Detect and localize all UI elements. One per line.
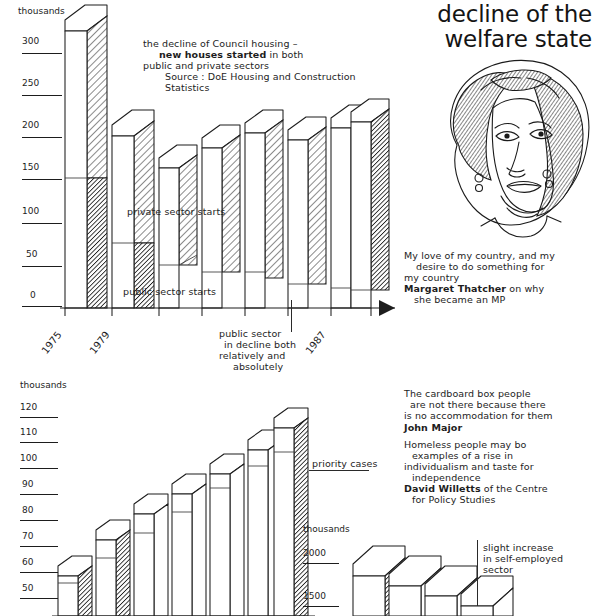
chart1-annotation-line2: in decline both <box>219 339 339 350</box>
chart3-annotation-line2: in self-employed <box>483 553 595 564</box>
thatcher-quote-attrib: Margaret Thatcher on why <box>404 283 600 294</box>
quote-david-willetts: Homeless people may bo examples of a ris… <box>404 439 602 505</box>
chart1-caption-line4: Source : DoE Housing and Construction St… <box>143 71 393 93</box>
chart3-annotation: slight increase in self-employed sector <box>483 542 595 575</box>
chart1-annotation: public sector in decline both relatively… <box>219 328 339 372</box>
chart2-bars <box>0 376 340 616</box>
quote-john-major: The cardboard box people are not there b… <box>404 388 602 433</box>
thatcher-quote-attrib-rest: on why <box>506 283 544 294</box>
chart1-annotation-line4: absolutely <box>219 361 339 372</box>
quote-david-willetts-attrib-line2: for Policy Studies <box>404 494 602 505</box>
chart3-annotation-line3: sector <box>483 564 595 575</box>
thatcher-quote-attrib-line2: she became an MP <box>404 294 600 305</box>
thatcher-quote-line1: My love of my country, and my <box>404 250 600 261</box>
chart1-xlabel-1975: 1975 <box>39 329 63 356</box>
quote-david-willetts-line1: Homeless people may bo <box>404 439 602 450</box>
chart1-xlabel-1979: 1979 <box>87 329 111 356</box>
chart1-caption: the decline of Council housing – new hou… <box>143 38 393 93</box>
chart1-annotation-line3: relatively and <box>219 350 339 361</box>
chart3-tickline-1500 <box>303 606 339 607</box>
thatcher-quote: My love of my country, and my desire to … <box>404 250 600 305</box>
quote-john-major-attrib-name: John Major <box>404 422 462 433</box>
quote-david-willetts-attrib: David Willetts of the Centre <box>404 483 602 494</box>
poster-canvas: decline of the welfare state thousands 3… <box>0 0 604 616</box>
margaret-thatcher-caricature <box>395 50 604 250</box>
quote-john-major-line3: is no accommodation for them <box>404 410 602 421</box>
chart3-annotation-line1: slight increase <box>483 542 595 553</box>
quote-david-willetts-line2: examples of a rise in <box>404 450 602 461</box>
chart2-label-leader <box>309 470 369 471</box>
chart1-label-private: private sector starts <box>127 206 225 217</box>
page-title: decline of the welfare state <box>382 2 592 52</box>
chart1-caption-line2-bold: new houses started <box>159 49 266 60</box>
chart-council-housing: thousands 300 250 200 150 100 50 0 <box>0 0 400 370</box>
page-title-line2: welfare state <box>382 27 592 52</box>
thatcher-quote-line2: desire to do something for <box>404 261 600 272</box>
quote-david-willetts-attrib-rest: of the Centre <box>481 483 548 494</box>
chart1-caption-line1: the decline of Council housing – <box>143 38 393 49</box>
chart1-caption-line2-rest: in both <box>266 49 303 60</box>
chart1-annotation-line1: public sector <box>219 328 339 339</box>
chart3-annotation-leader <box>477 540 478 606</box>
chart3-tickline-2000 <box>303 563 339 564</box>
thatcher-quote-attrib-name: Margaret Thatcher <box>404 283 506 294</box>
quote-john-major-line2: are not there because there <box>404 399 602 410</box>
chart1-caption-line2: new houses started in both <box>143 49 393 60</box>
chart1-caption-line3: public and private sectors <box>143 60 393 71</box>
chart-self-employed: thousands 2000 1500 slight increase <box>295 522 604 616</box>
quote-david-willetts-line4: independence <box>404 472 602 483</box>
chart1-label-public: public sector starts <box>123 286 216 297</box>
quote-david-willetts-attrib-name: David Willetts <box>404 483 481 494</box>
chart3-ytick-1500: 1500 <box>303 591 326 601</box>
chart3-ytick-2000: 2000 <box>303 548 326 558</box>
chart2-label-priority-cases: priority cases <box>312 458 378 469</box>
thatcher-quote-line3: my country <box>404 272 600 283</box>
page-title-line1: decline of the <box>382 2 592 27</box>
quote-john-major-attrib: John Major <box>404 422 602 433</box>
quote-john-major-line1: The cardboard box people <box>404 388 602 399</box>
quote-david-willetts-line3: individualism and taste for <box>404 461 602 472</box>
